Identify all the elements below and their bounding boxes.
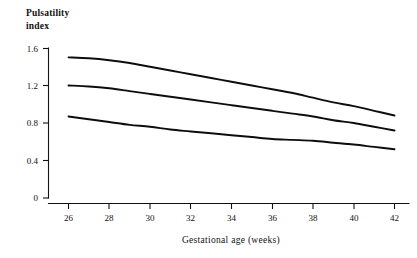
x-tick-label-38: 38 xyxy=(309,213,319,223)
x-tick-label-34: 34 xyxy=(227,213,237,223)
x-tick-label-36: 36 xyxy=(268,213,278,223)
y-tick-label-0.4: 0.4 xyxy=(27,156,39,166)
pulsatility-index-chart: Pulsatility index 1.6 1.2 0.8 0.4 0 xyxy=(0,0,417,258)
x-tick-label-40: 40 xyxy=(350,213,360,223)
upper-reference-curve xyxy=(69,57,395,115)
x-tick-label-42: 42 xyxy=(390,213,399,223)
y-tick-label-1.6: 1.6 xyxy=(27,44,39,54)
x-axis-ticks xyxy=(69,204,395,210)
x-axis-tick-labels: 26 28 30 32 34 36 38 40 42 xyxy=(64,213,399,223)
y-axis-ticks xyxy=(43,49,49,199)
y-tick-label-0.8: 0.8 xyxy=(27,118,39,128)
y-axis-title-line2: index xyxy=(26,21,49,31)
x-axis-title: Gestational age (weeks) xyxy=(182,235,280,246)
y-axis-title-line1: Pulsatility xyxy=(26,8,69,18)
y-axis-tick-labels: 1.6 1.2 0.8 0.4 0 xyxy=(27,44,39,204)
x-tick-label-32: 32 xyxy=(186,213,195,223)
x-tick-label-26: 26 xyxy=(64,213,74,223)
y-tick-label-0: 0 xyxy=(34,193,39,203)
x-tick-label-30: 30 xyxy=(146,213,156,223)
x-tick-label-28: 28 xyxy=(105,213,115,223)
data-curves xyxy=(69,57,395,149)
chart-canvas: Pulsatility index 1.6 1.2 0.8 0.4 0 xyxy=(0,0,417,258)
y-tick-label-1.2: 1.2 xyxy=(27,81,38,91)
